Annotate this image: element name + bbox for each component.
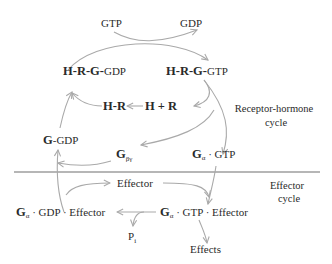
- h-plus-r-label: H + R: [145, 99, 178, 113]
- g-alpha-gdp-effector-label: Gα · GDP · Effector: [16, 205, 105, 220]
- g-protein-cycle-diagram: GTP GDP H-R-G-GDP H-R-G-GTP H-R H + R Re…: [0, 0, 332, 264]
- gbetagamma-to-g-gdp-arrow: [58, 161, 111, 165]
- effector-cycle-label: Effector cycle: [270, 175, 308, 204]
- hr-label: H-R: [103, 99, 127, 113]
- to-effects-arrow: [199, 220, 207, 243]
- galpha-gdp-effector-to-g-gdp-arrow: [57, 150, 64, 212]
- to-pi-arrow: [133, 212, 144, 226]
- gdp-label: GDP: [180, 17, 202, 29]
- to-effector-arrow: [66, 183, 110, 195]
- hrg-gdp-label: H-R-G-GDP: [63, 64, 126, 78]
- to-gbetagamma-arrow: [141, 110, 214, 145]
- effector-label: Effector: [117, 177, 153, 189]
- g-alpha-gtp-label: Gα · GTP: [192, 147, 235, 162]
- pi-label: Pi: [128, 230, 136, 245]
- gtp-to-gdp-arrow: [114, 30, 197, 41]
- g-alpha-gtp-effector-label: Gα · GTP · Effector: [160, 205, 248, 220]
- hrg-gtp-label: H-R-G-GTP: [166, 64, 228, 78]
- receptor-hormone-cycle-label: Receptor-hormone cycle: [235, 98, 318, 128]
- g-beta-gamma-label: Gβγ: [116, 147, 132, 163]
- g-gdp-label: G-GDP: [43, 133, 78, 147]
- effects-label: Effects: [190, 243, 221, 255]
- effector-to-galpha-gtp-effector-arrow: [163, 183, 209, 197]
- g-gdp-to-hrg-gdp-arrow: [60, 92, 72, 128]
- gtp-label: GTP: [101, 17, 122, 29]
- hrg-gtp-to-galpha-gtp-arrow: [204, 80, 227, 154]
- hr-to-hrg-gdp-arrow: [72, 93, 102, 106]
